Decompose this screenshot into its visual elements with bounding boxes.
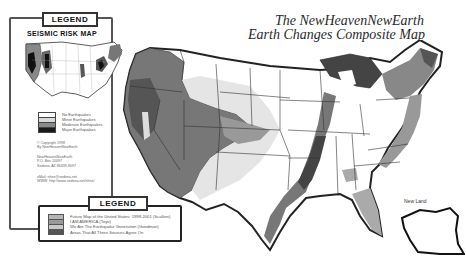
contact-text: eMail: nhne@sedona.net WWW: http://www.s… (37, 175, 94, 184)
website-line: WWW: http://www.sedona.net/nhne/ (37, 179, 94, 183)
seismic-mini-map (22, 40, 127, 102)
seismic-risk-map-title: SEISMIC RISK MAP (18, 30, 106, 37)
seismic-legend-tab: LEGEND (42, 12, 98, 27)
swatch-major-earthquakes (38, 127, 56, 133)
seismic-key-label: Major Earthquakes (62, 127, 96, 132)
copyright-text: © Copyright 1998 By NewHeavenNewEarth (37, 141, 78, 150)
new-land-label: New Land (404, 198, 427, 204)
map-title: The NewHeavenNewEarth Earth Changes Comp… (275, 14, 465, 42)
address-line: Sedona, AZ 86339-8097 (37, 164, 76, 168)
map-title-line1: The NewHeavenNewEarth (275, 14, 465, 28)
composite-us-map (120, 40, 465, 262)
swatch-all-agree (48, 229, 64, 235)
seismic-key-major: Major Earthquakes (38, 127, 102, 132)
copyright-line: By NewHeavenNewEarth (37, 145, 78, 149)
seismic-legend-keys: No Earthquakes Minor Earthquakes Moderat… (38, 112, 102, 132)
address-text: NewHeavenNewEarth P.O. Box 10097 Sedona,… (37, 155, 76, 168)
new-land-shape (402, 208, 464, 254)
